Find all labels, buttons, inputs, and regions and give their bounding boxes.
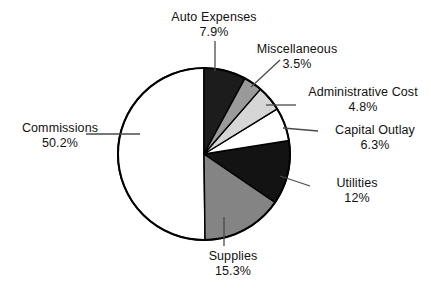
slice-label-supplies: Supplies 15.3% — [178, 249, 288, 278]
slice-label-auto-expenses-category: Auto Expenses — [152, 10, 276, 25]
slice-label-auto-expenses: Auto Expenses 7.9% — [152, 10, 276, 39]
slice-label-supplies-category: Supplies — [178, 249, 288, 264]
slice-label-miscellaneous: Miscellaneous 3.5% — [242, 42, 352, 71]
slice-label-commissions-category: Commissions — [6, 121, 114, 136]
leader-line-capital-outlay — [283, 128, 318, 131]
slice-label-miscellaneous-category: Miscellaneous — [242, 42, 352, 57]
slice-label-miscellaneous-percent: 3.5% — [242, 57, 352, 72]
pie-chart: Auto Expenses 7.9% Miscellaneous 3.5% Ad… — [0, 0, 431, 293]
slice-label-administrative-cost: Administrative Cost 4.8% — [297, 85, 429, 114]
slice-label-administrative-cost-percent: 4.8% — [297, 100, 429, 115]
slice-label-utilities-percent: 12% — [312, 191, 402, 206]
slice-label-administrative-cost-category: Administrative Cost — [297, 85, 429, 100]
pie-slice-commissions[interactable] — [118, 68, 205, 240]
slice-label-capital-outlay: Capital Outlay 6.3% — [320, 123, 430, 152]
slice-label-utilities-category: Utilities — [312, 176, 402, 191]
slice-label-capital-outlay-percent: 6.3% — [320, 138, 430, 153]
slice-label-capital-outlay-category: Capital Outlay — [320, 123, 430, 138]
slice-label-auto-expenses-percent: 7.9% — [152, 25, 276, 40]
slice-label-commissions-percent: 50.2% — [6, 136, 114, 151]
slice-label-supplies-percent: 15.3% — [178, 264, 288, 279]
slice-label-utilities: Utilities 12% — [312, 176, 402, 205]
slice-label-commissions: Commissions 50.2% — [6, 121, 114, 150]
